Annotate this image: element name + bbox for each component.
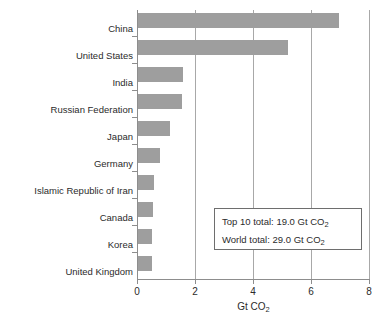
- x-axis-title: Gt CO2: [137, 301, 370, 314]
- category-label-canada: Canada: [5, 212, 133, 223]
- x-axis-tick-8: [369, 279, 370, 284]
- bar-russian-federation[interactable]: [137, 94, 182, 109]
- bar-india[interactable]: [137, 67, 183, 82]
- x-axis-tick-label-8: 8: [359, 286, 379, 298]
- x-axis-tick-label-2: 2: [185, 286, 205, 298]
- x-axis-tick-6: [311, 279, 312, 284]
- x-axis-tick-label-4: 4: [243, 286, 263, 298]
- bar-united-kingdom[interactable]: [137, 256, 152, 271]
- bar-canada[interactable]: [137, 202, 153, 217]
- bar-united-states[interactable]: [137, 40, 288, 55]
- annotation-top-10-total-subscript: 2: [324, 220, 328, 229]
- gridline-8: [369, 10, 370, 279]
- bar-japan[interactable]: [137, 121, 170, 136]
- category-label-russian-federation: Russian Federation: [5, 104, 133, 115]
- x-axis-tick-0: [137, 279, 138, 284]
- y-axis-line: [137, 10, 138, 280]
- bar-korea[interactable]: [137, 229, 152, 244]
- annotation-world-total-text: World total: 29.0 Gt CO: [222, 234, 321, 245]
- x-axis-tick-label-0: 0: [127, 286, 147, 298]
- category-label-germany: Germany: [5, 158, 133, 169]
- annotation-world-total-subscript: 2: [321, 238, 325, 247]
- category-label-china: China: [5, 23, 133, 34]
- category-label-united-kingdom: United Kingdom: [5, 266, 133, 277]
- annotation-world-total: World total: 29.0 Gt CO2: [222, 231, 354, 249]
- x-axis-title-text: Gt CO: [237, 301, 265, 312]
- annotation-top-10-total: Top 10 total: 19.0 Gt CO2: [222, 213, 354, 231]
- bar-islamic-republic-of-iran[interactable]: [137, 175, 154, 190]
- x-axis-title-subscript: 2: [266, 305, 270, 314]
- annotation-top-10-total-text: Top 10 total: 19.0 Gt CO: [222, 216, 324, 227]
- category-label-india: India: [5, 77, 133, 88]
- category-axis-labels: China United States India Russian Federa…: [0, 10, 133, 279]
- bar-china[interactable]: [137, 13, 339, 28]
- category-label-united-states: United States: [5, 50, 133, 61]
- category-label-islamic-republic-of-iran: Islamic Republic of Iran: [5, 185, 133, 196]
- bar-germany[interactable]: [137, 148, 160, 163]
- x-axis-tick-4: [253, 279, 254, 284]
- co2-emissions-bar-chart: China United States India Russian Federa…: [0, 0, 391, 324]
- totals-annotation-box: Top 10 total: 19.0 Gt CO2 World total: 2…: [214, 208, 362, 250]
- category-label-japan: Japan: [5, 131, 133, 142]
- x-axis-tick-label-6: 6: [301, 286, 321, 298]
- x-axis-tick-2: [195, 279, 196, 284]
- category-label-korea: Korea: [5, 239, 133, 250]
